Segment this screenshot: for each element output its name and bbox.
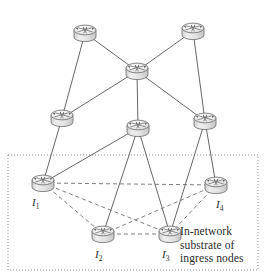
overlay-link <box>43 183 103 234</box>
router-icon <box>194 113 216 130</box>
core-link <box>170 121 205 234</box>
figure-canvas: I1I2I3I4 In-networksubstrate ofingress n… <box>0 0 267 280</box>
router-icon <box>51 110 73 127</box>
router-icon <box>159 226 181 243</box>
ingress-node-label: I1 <box>31 196 40 211</box>
core-link <box>43 128 138 183</box>
router-icon <box>182 23 204 39</box>
router-nodes-group <box>32 23 227 243</box>
region-caption: In-networksubstrate ofingress nodes <box>180 225 258 266</box>
region-caption-line-1: In-network <box>180 225 258 239</box>
router-icon <box>126 63 148 80</box>
core-link <box>193 31 205 121</box>
region-caption-line-2: substrate of <box>180 239 258 253</box>
core-link <box>138 128 170 234</box>
core-link <box>205 121 216 185</box>
router-icon <box>74 25 96 41</box>
router-icon <box>32 175 54 192</box>
core-link <box>137 71 205 121</box>
region-caption-line-3: ingress nodes <box>180 252 258 266</box>
overlay-link <box>43 183 216 185</box>
router-icon <box>92 226 114 243</box>
ingress-node-label: I3 <box>161 248 170 263</box>
router-icon <box>127 120 149 137</box>
router-icon <box>205 177 227 194</box>
core-link <box>103 128 138 234</box>
ingress-node-label: I2 <box>94 248 103 263</box>
ingress-node-label: I4 <box>215 198 224 213</box>
